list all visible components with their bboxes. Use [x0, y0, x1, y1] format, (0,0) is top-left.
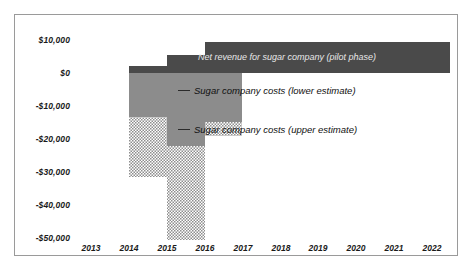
y-tick-5: -$40,000: [4, 200, 70, 210]
series-svg: [72, 32, 450, 240]
x-tick-2022: 2022: [423, 243, 442, 253]
chart-figure: $10,000 $0 -$10,000 -$20,000 -$30,000 -$…: [0, 0, 472, 271]
x-tick-2017: 2017: [234, 243, 253, 253]
y-tick-2: -$10,000: [4, 101, 70, 111]
leader-line-upper-estimate: [178, 129, 190, 130]
y-tick-4: -$30,000: [4, 167, 70, 177]
y-tick-1: $0: [4, 68, 70, 78]
x-tick-2016: 2016: [196, 243, 215, 253]
y-tick-3: -$20,000: [4, 134, 70, 144]
net-revenue-inbar-label: Net revenue for sugar company (pilot pha…: [198, 52, 376, 62]
x-tick-2014: 2014: [120, 243, 139, 253]
plot-area: [72, 32, 450, 240]
cost-upper-estimate-label: Sugar company costs (upper estimate): [194, 124, 357, 135]
x-axis-labels: 2013 2014 2015 2016 2017 2018 2019 2020 …: [0, 243, 472, 259]
x-tick-2020: 2020: [347, 243, 366, 253]
y-tick-0: $10,000: [4, 35, 70, 45]
y-axis-labels: $10,000 $0 -$10,000 -$20,000 -$30,000 -$…: [0, 0, 70, 271]
cost-lower-estimate-label: Sugar company costs (lower estimate): [194, 85, 356, 96]
x-tick-2018: 2018: [272, 243, 291, 253]
x-tick-2013: 2013: [82, 243, 101, 253]
y-tick-6: -$50,000: [4, 233, 70, 243]
x-tick-2021: 2021: [385, 243, 404, 253]
leader-line-lower-estimate: [178, 90, 190, 91]
x-tick-2019: 2019: [309, 243, 328, 253]
x-tick-2015: 2015: [158, 243, 177, 253]
